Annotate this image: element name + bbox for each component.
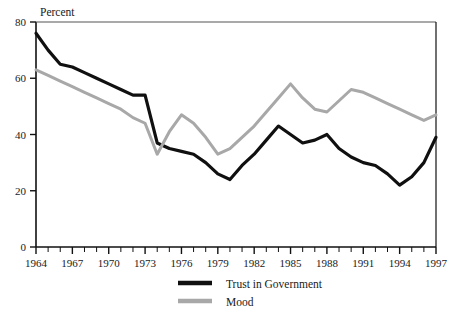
line-chart: 020406080 196419671970197319761979198219… [0, 0, 451, 313]
y-tick-label: 40 [15, 129, 27, 141]
y-axis-tick-labels: 020406080 [15, 16, 27, 253]
x-tick-label: 1976 [170, 257, 193, 269]
x-tick-label: 1991 [352, 257, 374, 269]
x-tick-label: 1988 [316, 257, 339, 269]
y-tick-label: 20 [15, 185, 27, 197]
series-line-trust-in-government [36, 33, 436, 185]
x-tick-label: 1979 [207, 257, 230, 269]
chart-figure: 020406080 196419671970197319761979198219… [0, 0, 451, 313]
chart-legend: Trust in GovernmentMood [178, 278, 323, 308]
x-axis-ticks [36, 247, 436, 254]
y-axis-unit-label: Percent [40, 6, 75, 18]
legend-label-trust-in-government: Trust in Government [226, 278, 323, 290]
y-axis-ticks [30, 22, 36, 247]
series-line-mood [36, 70, 436, 154]
legend-label-mood: Mood [226, 296, 254, 308]
y-tick-label: 0 [21, 241, 27, 253]
y-tick-label: 60 [15, 72, 27, 84]
data-series-layer [36, 33, 436, 185]
x-tick-label: 1994 [389, 257, 412, 269]
x-tick-label: 1964 [25, 257, 48, 269]
x-tick-label: 1982 [243, 257, 265, 269]
x-tick-label: 1970 [98, 257, 121, 269]
y-tick-label: 80 [15, 16, 27, 28]
x-tick-label: 1967 [61, 257, 84, 269]
x-tick-label: 1985 [280, 257, 303, 269]
chart-axes [36, 22, 436, 247]
x-tick-label: 1973 [134, 257, 157, 269]
x-axis-tick-labels: 1964196719701973197619791982198519881991… [25, 257, 448, 269]
x-tick-label: 1997 [425, 257, 448, 269]
